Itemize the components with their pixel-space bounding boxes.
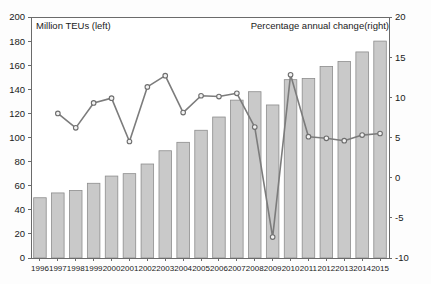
right-tick-label: -10 [395,252,409,263]
bar-2013 [338,62,351,258]
x-tick-label-1997: 1997 [49,264,67,273]
line-marker-2004 [181,110,186,115]
x-tick-label-2003: 2003 [156,264,174,273]
x-tick-label-2011: 2011 [300,264,318,273]
line-marker-2008 [252,125,257,130]
bar-2014 [356,52,369,258]
x-tick-label-2008: 2008 [246,264,264,273]
x-tick-label-2007: 2007 [228,264,246,273]
line-marker-2014 [360,133,365,138]
line-marker-2012 [324,136,329,141]
line-marker-2015 [378,131,383,136]
left-tick-label: 0 [20,252,25,263]
chart-container: 020406080100120140160180200 -10-50510152… [0,0,431,284]
bar-2015 [374,41,387,258]
left-tick-label: 180 [9,36,25,47]
x-tick-label-2006: 2006 [210,264,228,273]
x-tick-label-2010: 2010 [282,264,300,273]
left-tick-label: 60 [14,180,25,191]
bar-1999 [87,183,100,258]
line-marker-2003 [163,73,168,78]
x-tick-label-1998: 1998 [67,264,85,273]
line-marker-2000 [109,96,114,101]
right-axis-note: Percentage annual change(right) [251,20,389,31]
bar-2008 [248,92,261,258]
bar-2000 [105,176,118,258]
line-marker-2002 [145,85,150,90]
x-tick-label-2013: 2013 [335,264,353,273]
bar-2011 [302,78,315,258]
x-tick-label-2005: 2005 [192,264,210,273]
bar-2005 [195,130,208,258]
line-marker-2005 [199,93,204,98]
line-marker-2007 [235,91,240,96]
x-tick-label-2009: 2009 [264,264,282,273]
right-tick-label: 15 [395,52,406,63]
bar-1997 [52,193,65,258]
bar-2004 [177,142,190,258]
left-tick-label: 160 [9,60,25,71]
left-tick-label: 20 [14,228,25,239]
left-tick-label: 200 [9,11,25,22]
bar-2006 [213,117,226,258]
x-tick-label-2000: 2000 [103,264,121,273]
bar-2002 [141,164,154,258]
left-tick-label: 80 [14,156,25,167]
right-axis-ticks: -10-505101520 [389,11,409,263]
line-marker-2011 [306,134,311,139]
x-tick-label-2015: 2015 [371,264,389,273]
x-tick-label-2014: 2014 [353,264,371,273]
line-marker-2013 [342,138,347,143]
plot-background [31,17,389,258]
bar-2003 [159,151,172,258]
bar-1996 [34,198,47,258]
right-tick-label: 10 [395,92,406,103]
x-tick-label-1999: 1999 [85,264,103,273]
right-tick-label: 0 [395,172,400,183]
bar-2010 [284,80,297,258]
dual-axis-bar-line-chart: 020406080100120140160180200 -10-50510152… [0,0,431,284]
left-tick-label: 140 [9,84,25,95]
line-marker-2009 [270,235,275,240]
bar-2001 [123,174,136,258]
x-tick-label-2002: 2002 [138,264,156,273]
line-marker-2006 [217,94,222,99]
left-tick-label: 120 [9,108,25,119]
line-marker-1998 [73,126,78,131]
line-marker-1997 [56,111,61,116]
x-tick-label-1996: 1996 [31,264,49,273]
bar-2007 [231,100,244,258]
right-tick-label: 5 [395,132,400,143]
line-marker-2010 [288,73,293,78]
right-tick-label: -5 [395,212,403,223]
right-tick-label: 20 [395,11,406,22]
x-tick-label-2012: 2012 [317,264,335,273]
x-tick-label-2004: 2004 [174,264,192,273]
bar-2012 [320,66,333,258]
left-tick-label: 100 [9,132,25,143]
x-axis-ticks: 1996199719981999200020012002200320042005… [31,258,389,273]
line-marker-2001 [127,139,132,144]
x-tick-label-2001: 2001 [121,264,139,273]
left-axis-ticks: 020406080100120140160180200 [9,11,31,263]
bar-1998 [69,191,82,258]
left-tick-label: 40 [14,204,25,215]
line-marker-1999 [91,101,96,106]
left-axis-note: Million TEUs (left) [36,20,111,31]
